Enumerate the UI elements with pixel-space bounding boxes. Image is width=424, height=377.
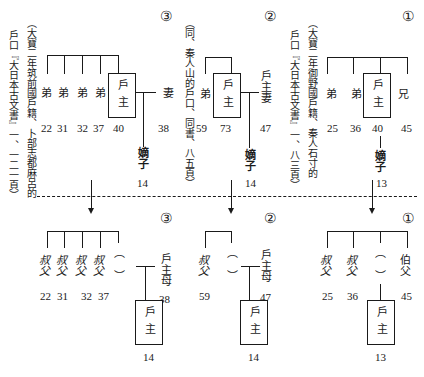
household-head-label: 戶主 — [214, 74, 240, 117]
group3-deceased-parent-open: ︵ — [113, 248, 125, 259]
group3-marker: ③ — [160, 8, 173, 24]
group3-head-age: 40 — [113, 122, 124, 134]
household-head-label: 戶主 — [364, 74, 390, 117]
group3-uncle-age: 37 — [98, 290, 109, 302]
group3-uncle-label: 叔父 — [94, 254, 106, 276]
group3-sibling-label: 弟 — [77, 88, 88, 100]
group3-bottom-household-head-box: 戶主 — [135, 300, 163, 345]
group1-age: 45 — [401, 122, 412, 134]
group1-bottom-head-age: 13 — [375, 351, 386, 363]
group3-spouse-label: 妻 — [163, 88, 174, 100]
group2-bottom-household-head-box: 戶主 — [240, 300, 268, 345]
group1-marker: ① — [402, 8, 415, 24]
group2-spouse-age: 47 — [260, 122, 271, 134]
group3-household-head-box: 戶主 — [108, 73, 136, 118]
group2-household-head-box: 戶主 — [213, 73, 241, 118]
group3-age: 31 — [57, 122, 68, 134]
group3-deceased-parent-close: ︶ — [113, 271, 125, 282]
source-citation-group1-line1: 戶口『大日本古文書』一、八三頁） — [288, 30, 299, 190]
group1-heir-age: 13 — [376, 177, 387, 189]
group1-uncle-label: 叔父 — [321, 254, 333, 276]
group2-marker: ② — [264, 8, 277, 24]
group1-deceased-parent-close: ︶ — [374, 271, 386, 282]
group1-uncle-label: 伯父 — [401, 254, 413, 276]
group1-age: 36 — [350, 122, 361, 134]
household-head-label: 戶主 — [109, 74, 135, 117]
group1-bottom-marker: ① — [402, 210, 415, 226]
household-head-label: 戶主 — [241, 301, 267, 344]
group1-household-head-box: 戶主 — [363, 73, 391, 118]
group1-head-age: 40 — [372, 122, 383, 134]
group2-head-age: 73 — [220, 122, 231, 134]
group1-heir-label: 嫡子 — [374, 150, 386, 172]
group3-age: 37 — [93, 122, 104, 134]
group1-deceased-parent-open: ︵ — [374, 248, 386, 259]
group1-sibling-label: 弟 — [326, 89, 337, 101]
group3-spouse-age: 38 — [158, 122, 169, 134]
group3-bottom-marker: ③ — [160, 210, 173, 226]
group2-deceased-parent-close: ︶ — [226, 271, 238, 282]
group1-uncle-age: 45 — [401, 290, 412, 302]
group1-sibling-label: 弟 — [351, 89, 362, 101]
group2-age: 59 — [196, 122, 207, 134]
group1-heir-line — [380, 136, 381, 148]
group2-bottom-marker: ② — [264, 210, 277, 226]
group3-heir-age: 14 — [137, 177, 148, 189]
source-citation-group1-line2: （大寶二年御野國戶籍、秦人石寸的 — [306, 18, 317, 178]
group2-marriage-line — [241, 92, 259, 93]
group3-heir-label: 嫡子 — [137, 147, 149, 169]
group3-age: 22 — [41, 122, 52, 134]
section-divider — [37, 196, 417, 197]
group3-sibling-label: 弟 — [41, 88, 52, 100]
household-head-label: 戶主 — [136, 301, 162, 344]
household-head-label: 戶主 — [368, 301, 394, 344]
group1-uncle-age: 36 — [347, 290, 358, 302]
group1-bottom-household-head-box: 戶主 — [367, 300, 395, 345]
group1-age: 25 — [327, 122, 338, 134]
group3-age: 32 — [77, 122, 88, 134]
group2-heir-label: 嫡子 — [244, 149, 256, 171]
source-citation-group3-line2: （大寶二年筑前國戶籍、卜部志都麻呂的 — [25, 18, 36, 198]
source-citation-group3-line1: 戶口『大日本古文書』一、一二一頁） — [7, 30, 18, 200]
group3-marriage-line — [136, 92, 156, 93]
group2-bottom-head-age: 14 — [248, 351, 259, 363]
source-citation-group2: （同、秦人山的戶口、同書、八五頁） — [183, 18, 194, 188]
group3-uncle-label: 叔父 — [57, 254, 69, 276]
group2-spouse-label: 戶主妻 — [260, 70, 272, 103]
group2-uncle-label: 叔父 — [199, 254, 211, 276]
group3-uncle-age: 22 — [40, 290, 51, 302]
group1-head-line — [380, 284, 381, 300]
group2-uncle-age: 59 — [199, 290, 210, 302]
group2-heir-line — [249, 92, 250, 148]
group3-uncle-label: 叔父 — [76, 254, 88, 276]
group2-mother-label: 戶主母 — [260, 249, 272, 282]
group3-uncle-age: 31 — [57, 290, 68, 302]
group3-sibling-label: 弟 — [95, 88, 106, 100]
group2-head-line — [249, 266, 250, 300]
group3-mother-label: 戶主母 — [160, 253, 172, 286]
group3-uncle-age: 32 — [81, 290, 92, 302]
group3-head-line — [145, 266, 146, 300]
group2-sibling-label: 弟 — [200, 89, 211, 101]
group2-heir-age: 14 — [245, 177, 256, 189]
group2-deceased-parent-open: ︵ — [226, 248, 238, 259]
group3-heir-line — [143, 92, 144, 147]
group1-uncle-label: 叔父 — [347, 254, 359, 276]
group3-bottom-head-age: 14 — [143, 351, 154, 363]
group1-uncle-age: 25 — [322, 290, 333, 302]
group3-sibling-label: 弟 — [58, 88, 69, 100]
group1-sibling-label: 兄 — [398, 89, 409, 101]
